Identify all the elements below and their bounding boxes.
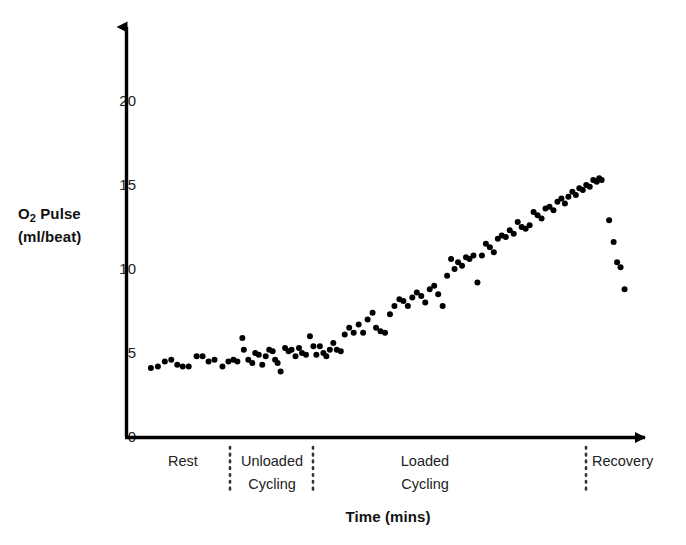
data-point <box>180 363 186 369</box>
data-point <box>370 310 376 316</box>
data-point <box>431 283 437 289</box>
data-point <box>599 177 605 183</box>
data-point <box>405 303 411 309</box>
data-point <box>515 219 521 225</box>
data-point-group <box>148 175 628 374</box>
data-point <box>444 273 450 279</box>
data-point <box>360 330 366 336</box>
data-point <box>459 263 465 269</box>
data-point <box>452 266 458 272</box>
data-point <box>313 352 319 358</box>
data-point <box>338 348 344 354</box>
data-point <box>356 321 362 327</box>
data-point <box>391 303 397 309</box>
data-point <box>293 353 299 359</box>
data-point <box>511 231 517 237</box>
data-point <box>323 353 329 359</box>
data-point <box>422 300 428 306</box>
data-point <box>342 332 348 338</box>
data-point <box>440 303 446 309</box>
data-point <box>558 195 564 201</box>
data-point <box>365 316 371 322</box>
data-point <box>278 368 284 374</box>
data-point <box>239 335 245 341</box>
data-point <box>249 360 255 366</box>
data-point <box>263 353 269 359</box>
data-point <box>206 358 212 364</box>
data-point <box>503 234 509 240</box>
data-point <box>400 298 406 304</box>
data-point <box>256 352 262 358</box>
data-point <box>474 279 480 285</box>
data-point <box>346 325 352 331</box>
data-point <box>303 352 309 358</box>
data-point <box>448 256 454 262</box>
data-point <box>317 343 323 349</box>
axes-group <box>125 27 645 438</box>
data-point <box>565 194 571 200</box>
data-point <box>527 222 533 228</box>
data-point <box>307 333 313 339</box>
data-point <box>618 264 624 270</box>
data-point <box>580 187 586 193</box>
data-point <box>562 200 568 206</box>
data-point <box>234 358 240 364</box>
data-point <box>470 253 476 259</box>
data-point <box>270 348 276 354</box>
scatter-plot-canvas <box>0 0 686 545</box>
data-point <box>435 291 441 297</box>
data-point <box>611 239 617 245</box>
data-point <box>155 363 161 369</box>
data-point <box>487 244 493 250</box>
data-point <box>174 362 180 368</box>
data-point <box>479 253 485 259</box>
data-point <box>241 347 247 353</box>
data-point <box>200 353 206 359</box>
data-point <box>550 207 556 213</box>
data-point <box>614 259 620 265</box>
data-point <box>259 362 265 368</box>
data-point <box>296 345 302 351</box>
data-point <box>351 330 357 336</box>
data-point <box>194 353 200 359</box>
data-point <box>186 363 192 369</box>
data-point <box>387 311 393 317</box>
data-point <box>539 216 545 222</box>
data-point <box>289 347 295 353</box>
data-point <box>409 295 415 301</box>
data-point <box>275 360 281 366</box>
data-point <box>491 249 497 255</box>
data-point <box>587 184 593 190</box>
data-point <box>622 286 628 292</box>
data-point <box>330 340 336 346</box>
data-point <box>382 330 388 336</box>
data-point <box>212 357 218 363</box>
data-point <box>606 217 612 223</box>
data-point <box>418 293 424 299</box>
data-point <box>168 357 174 363</box>
data-point <box>573 192 579 198</box>
data-point <box>310 343 316 349</box>
data-point <box>219 363 225 369</box>
phase-divider-group <box>230 447 586 492</box>
data-point <box>327 347 333 353</box>
data-point <box>148 365 154 371</box>
chart-figure: O2 Pulse (ml/beat) Time (mins) 20 15 10 … <box>0 0 686 545</box>
data-point <box>162 358 168 364</box>
